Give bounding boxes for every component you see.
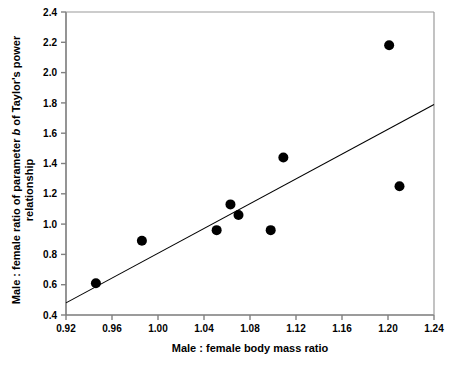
y-tick-label: 2.0: [43, 67, 57, 78]
scatter-plot-figure: 0.40.60.81.01.21.41.61.82.02.22.4 0.920.…: [0, 0, 454, 367]
y-tick-label: 1.4: [43, 158, 57, 169]
x-tick-label: 1.04: [194, 323, 214, 334]
y-tick-label: 2.4: [43, 7, 57, 18]
x-tick-label: 1.20: [378, 323, 398, 334]
data-point: [225, 199, 235, 209]
y-tick-label: 1.8: [43, 98, 57, 109]
y-tick-label: 0.4: [43, 310, 57, 321]
y-axis-title-line1: Male : female ratio of parameter b of Ta…: [10, 35, 22, 304]
figure-background: [0, 0, 454, 367]
x-tick-label: 1.08: [240, 323, 260, 334]
y-tick-label: 1.0: [43, 219, 57, 230]
x-tick-label: 0.96: [102, 323, 122, 334]
x-tick-label: 1.12: [286, 323, 306, 334]
y-tick-label: 2.2: [43, 37, 57, 48]
data-point: [384, 40, 394, 50]
y-tick-label: 1.2: [43, 188, 57, 199]
data-point: [395, 181, 405, 191]
data-point: [137, 236, 147, 246]
data-point: [266, 225, 276, 235]
y-tick-label: 0.8: [43, 249, 57, 260]
data-point: [212, 225, 222, 235]
data-point: [278, 152, 288, 162]
x-tick-label: 0.92: [56, 323, 76, 334]
y-tick-label: 0.6: [43, 279, 57, 290]
x-axis-title: Male : female body mass ratio: [172, 342, 329, 354]
data-point: [91, 278, 101, 288]
x-axis-tick-labels: 0.920.961.001.041.081.121.161.201.24: [56, 323, 444, 334]
x-tick-label: 1.16: [332, 323, 352, 334]
x-tick-label: 1.24: [424, 323, 444, 334]
y-tick-label: 1.6: [43, 128, 57, 139]
y-axis-title-line2: relationship: [23, 159, 35, 222]
data-point: [234, 210, 244, 220]
x-tick-label: 1.00: [148, 323, 168, 334]
